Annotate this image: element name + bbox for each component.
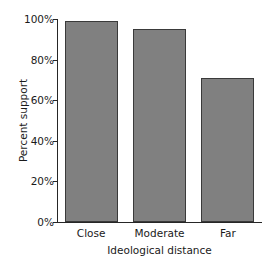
y-axis-tick: 100% xyxy=(57,19,58,20)
y-axis-tick: 0% xyxy=(57,222,58,223)
x-axis-tick-label: Close xyxy=(77,226,106,240)
x-axis-title: Ideological distance xyxy=(57,243,262,257)
x-axis-tick-label: Moderate xyxy=(135,226,185,240)
y-axis-tick-label: 0% xyxy=(37,215,54,229)
y-axis-title: Percent support xyxy=(16,19,30,222)
y-axis-tick-label: 60% xyxy=(31,93,54,107)
y-axis-tick: 20% xyxy=(57,181,58,182)
plot-area: 0%20%40%60%80%100% CloseModerateFar xyxy=(57,19,262,222)
bar-chart-figure: Percent support 0%20%40%60%80%100% Close… xyxy=(0,0,271,271)
bar xyxy=(133,29,186,222)
bar xyxy=(201,78,254,222)
y-axis-tick-label: 40% xyxy=(31,134,54,148)
y-axis-tick-label: 100% xyxy=(24,12,54,26)
x-axis-tick-label: Far xyxy=(220,226,236,240)
bar xyxy=(65,21,118,222)
y-axis-tick: 40% xyxy=(57,141,58,142)
y-axis-tick: 80% xyxy=(57,60,58,61)
y-axis-tick-label: 80% xyxy=(31,53,54,67)
y-axis-tick-label: 20% xyxy=(31,174,54,188)
x-axis-spine xyxy=(57,222,262,223)
y-axis-spine xyxy=(57,19,58,223)
y-axis-tick: 60% xyxy=(57,100,58,101)
